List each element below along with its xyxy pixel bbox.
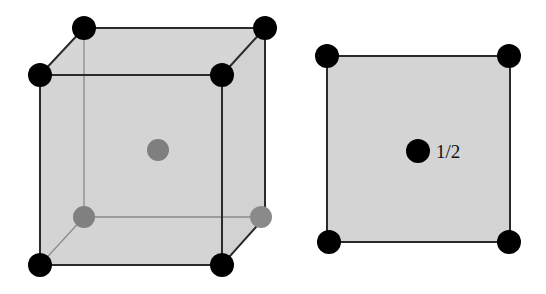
cube-front-face: [40, 75, 222, 265]
corner-atom: [317, 230, 341, 254]
bcc-unit-cell-3d: [28, 16, 277, 277]
body-center-atom: [147, 139, 169, 161]
hidden-atom: [250, 206, 272, 228]
bcc-plan-view: 1/2: [315, 44, 521, 254]
hidden-atom: [73, 206, 95, 228]
corner-atom: [28, 253, 52, 277]
diagram-canvas: 1/2: [0, 0, 546, 294]
corner-atom: [497, 230, 521, 254]
corner-atom: [497, 44, 521, 68]
corner-atom: [253, 16, 277, 40]
corner-atom: [210, 253, 234, 277]
center-atom-label: 1/2: [436, 141, 460, 162]
center-atom: [406, 139, 430, 163]
corner-atom: [72, 16, 96, 40]
corner-atom: [315, 44, 339, 68]
corner-atom: [210, 63, 234, 87]
corner-atom: [28, 63, 52, 87]
